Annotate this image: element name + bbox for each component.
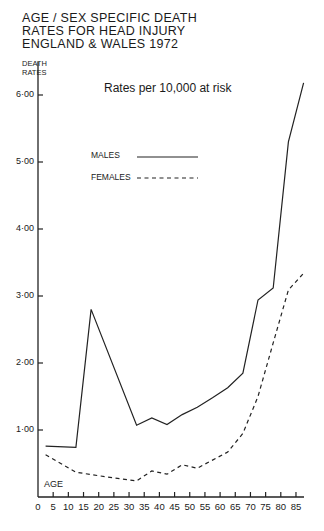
x-tick-label: 55 xyxy=(197,501,213,512)
x-tick-label: 75 xyxy=(258,501,274,512)
y-tick-label: 4·00 xyxy=(4,223,34,233)
y-tick-label: 2·00 xyxy=(4,357,34,367)
x-tick-label: 30 xyxy=(121,501,137,512)
x-tick-label: 40 xyxy=(151,501,167,512)
x-tick-label: 0 xyxy=(30,501,46,512)
x-tick-label: 70 xyxy=(242,501,258,512)
x-tick-label: 80 xyxy=(273,501,289,512)
x-tick-label: 10 xyxy=(60,501,76,512)
x-tick-label: 25 xyxy=(106,501,122,512)
x-tick-label: 5 xyxy=(45,501,61,512)
x-tick-label: 20 xyxy=(91,501,107,512)
x-tick-label: 45 xyxy=(167,501,183,512)
y-tick-label: 6·00 xyxy=(4,89,34,99)
females-series-line xyxy=(46,273,304,481)
males-series-line xyxy=(46,83,304,448)
x-tick-label: 85 xyxy=(288,501,304,512)
y-ticks xyxy=(38,95,43,430)
x-tick-label: 50 xyxy=(182,501,198,512)
x-tick-label: 35 xyxy=(136,501,152,512)
plot-area xyxy=(0,0,324,531)
x-tick-label: 15 xyxy=(76,501,92,512)
y-tick-label: 1·00 xyxy=(4,424,34,434)
x-tick-label: 60 xyxy=(212,501,228,512)
y-tick-label: 5·00 xyxy=(4,156,34,166)
x-ticks xyxy=(53,492,296,497)
x-tick-label: 65 xyxy=(227,501,243,512)
y-tick-label: 3·00 xyxy=(4,290,34,300)
